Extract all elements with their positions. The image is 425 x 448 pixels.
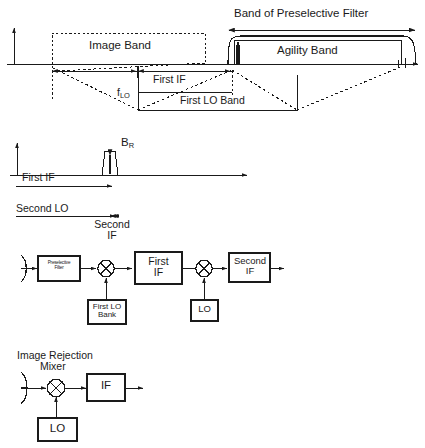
- mixer1-symbol: [98, 260, 114, 276]
- lo-label-imagerejection: LO: [38, 423, 77, 435]
- antenna-symbol-superhet: [21, 255, 27, 282]
- second-lo-label: Second LO: [16, 203, 69, 214]
- first-lo-bank-label: First LO Bank: [88, 303, 126, 319]
- mixer2-symbol: [196, 260, 212, 276]
- br-base: B: [121, 136, 129, 148]
- first-if-block-label-line2: IF: [135, 267, 182, 278]
- second-if-arrow-label: Second IF: [72, 219, 152, 240]
- image-band-label: Image Band: [89, 40, 151, 52]
- br-label: BR: [121, 137, 134, 150]
- preselective-filter-label-line2: Filter: [38, 266, 80, 271]
- first-lo-bank-label-line2: Bank: [88, 311, 126, 319]
- br-subscript: R: [129, 141, 134, 150]
- diagram-canvas: Band of Preselective Filter Image Band A…: [0, 0, 425, 448]
- first-lo-band-label: First LO Band: [180, 95, 245, 106]
- antenna-symbol-imagerejection: [21, 372, 27, 404]
- first-if-band-label: First IF: [153, 74, 186, 85]
- preselective-filter-label: Preselective Filter: [38, 261, 80, 270]
- diagram-vector-layer: [0, 0, 425, 448]
- first-if-block-label: First IF: [135, 256, 182, 277]
- second-if-block-label-line2: IF: [228, 266, 272, 276]
- if-first-if-label: First IF: [22, 172, 55, 183]
- if-block-label: IF: [87, 380, 125, 392]
- signal-spike: [236, 42, 240, 64]
- image-rejection-mixer-label-line2: Mixer: [40, 361, 66, 372]
- image-rejection-mixer-symbol: [47, 379, 64, 396]
- f-lo-subscript: LO: [120, 91, 130, 100]
- f-lo-label: fLO: [117, 87, 130, 100]
- second-if-arrow-label-line2: IF: [72, 230, 152, 241]
- agility-band-label: Agility Band: [277, 45, 338, 57]
- band-of-preselective-filter-label: Band of Preselective Filter: [234, 8, 368, 20]
- second-if-block-label: Second IF: [228, 256, 272, 275]
- lo-label-superhet: LO: [191, 304, 218, 314]
